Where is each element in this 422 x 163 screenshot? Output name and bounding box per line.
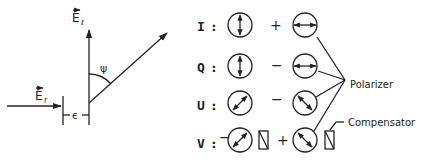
e-l-letter: E bbox=[72, 11, 80, 25]
param-label-q: Q bbox=[197, 60, 205, 75]
operator-plus: + bbox=[270, 17, 282, 33]
row-q: Q : − bbox=[197, 54, 317, 78]
e-r-subscript: r bbox=[44, 96, 48, 105]
e-l-label: E ℓ bbox=[72, 10, 84, 27]
colon: : bbox=[210, 98, 218, 113]
compensator-leader-line bbox=[330, 122, 344, 130]
compensator-label: Compensator bbox=[348, 117, 416, 128]
stokes-parameter-diagram: I : + Q : − U : − bbox=[197, 13, 416, 152]
row-v: V : − + bbox=[197, 128, 334, 152]
e-r-letter: E bbox=[35, 89, 43, 103]
operator-plus: + bbox=[277, 132, 289, 148]
field-vector-diagram: E ℓ ψ E r ϵ bbox=[7, 10, 167, 125]
colon: : bbox=[210, 136, 218, 151]
psi-label: ψ bbox=[100, 62, 107, 75]
param-label-i: I bbox=[197, 19, 205, 34]
operator-minus: − bbox=[271, 91, 283, 107]
compensator-icon bbox=[325, 131, 334, 149]
param-label-v: V bbox=[197, 136, 205, 151]
polarization-diagram: E ℓ ψ E r ϵ I : + bbox=[0, 0, 422, 163]
row-i: I : + bbox=[197, 13, 317, 37]
polarizer-leader-lines bbox=[314, 37, 345, 131]
e-r-label: E r bbox=[35, 88, 48, 105]
compensator-icon bbox=[259, 131, 268, 149]
polarizer-label: Polarizer bbox=[350, 79, 394, 90]
operator-minus: − bbox=[271, 57, 283, 73]
row-u: U : − bbox=[197, 91, 317, 115]
e-l-subscript: ℓ bbox=[80, 19, 84, 27]
colon: : bbox=[210, 60, 218, 75]
epsilon-label: ϵ bbox=[72, 110, 78, 121]
colon: : bbox=[210, 19, 218, 34]
param-label-u: U bbox=[197, 98, 205, 113]
psi-angle-arc bbox=[89, 74, 111, 84]
